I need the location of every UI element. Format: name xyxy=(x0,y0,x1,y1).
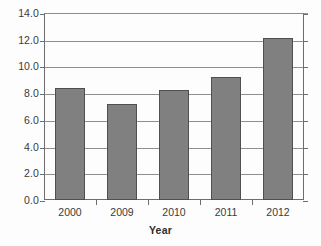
bar-chart-figure: 0.02.04.06.08.010.012.014.0 200020092010… xyxy=(0,0,321,246)
bar xyxy=(263,38,293,200)
y-axis-tick xyxy=(303,201,308,202)
y-axis-tick-label: 10.0 xyxy=(18,60,39,72)
y-axis-tick-label: 4.0 xyxy=(24,141,39,153)
x-axis-tick-label: 2009 xyxy=(110,206,133,218)
x-axis-tick xyxy=(200,200,201,205)
y-axis-tick-label: 8.0 xyxy=(24,87,39,99)
bar xyxy=(159,90,189,200)
bar xyxy=(55,88,85,200)
y-axis-tick xyxy=(40,201,45,202)
y-axis-tick-label: 14.0 xyxy=(18,7,39,19)
bar xyxy=(211,77,241,200)
x-axis-tick xyxy=(148,200,149,205)
x-axis-tick-label: 2010 xyxy=(162,206,185,218)
x-axis-title: Year xyxy=(0,224,321,236)
y-axis-tick-label: 6.0 xyxy=(24,114,39,126)
y-axis-tick-label: 2.0 xyxy=(24,167,39,179)
y-axis-tick-label: 12.0 xyxy=(18,34,39,46)
bar xyxy=(107,104,137,200)
bars-layer xyxy=(44,13,304,200)
x-axis-tick-label: 2000 xyxy=(58,206,81,218)
x-axis-tick-label: 2011 xyxy=(215,206,238,218)
x-axis-tick xyxy=(96,200,97,205)
y-axis-tick-label: 0.0 xyxy=(24,194,39,206)
x-axis-tick xyxy=(252,200,253,205)
x-axis-tick-label: 2012 xyxy=(266,206,289,218)
